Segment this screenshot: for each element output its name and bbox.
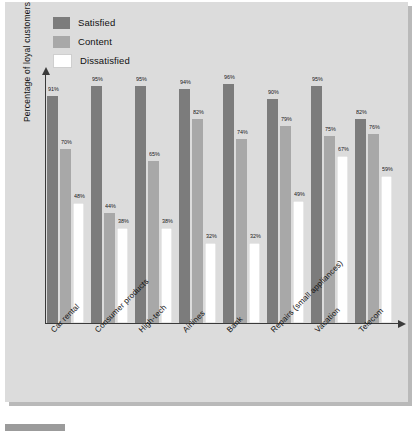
bar-slot: 44% xyxy=(104,74,115,323)
bar-dissatisfied-4[interactable]: 32% xyxy=(249,243,260,323)
bar-value-label: 65% xyxy=(149,151,160,157)
bar-satisfied-1[interactable]: 95% xyxy=(91,86,102,323)
bar-satisfied-3[interactable]: 94% xyxy=(179,89,190,323)
bar-satisfied-4[interactable]: 96% xyxy=(223,84,234,323)
bar-value-label: 70% xyxy=(61,139,72,145)
caption-marker-bar xyxy=(5,424,65,431)
bar-value-label: 44% xyxy=(105,204,116,210)
bar-value-label: 95% xyxy=(92,77,103,83)
bar-content-3[interactable]: 82% xyxy=(192,119,203,323)
bar-value-label: 82% xyxy=(356,109,367,115)
bar-dissatisfied-7[interactable]: 59% xyxy=(381,176,392,323)
bar-value-label: 96% xyxy=(224,74,235,80)
bar-value-label: 49% xyxy=(294,191,305,197)
bar-content-0[interactable]: 70% xyxy=(60,149,71,323)
bar-satisfied-7[interactable]: 82% xyxy=(355,119,366,323)
legend-item: Content xyxy=(53,33,203,50)
bar-value-label: 48% xyxy=(74,194,85,200)
bar-value-label: 79% xyxy=(281,116,292,122)
bar-slot: 79% xyxy=(280,74,291,323)
bar-value-label: 90% xyxy=(268,89,279,95)
bar-slot: 94% xyxy=(179,74,190,323)
bar-slot: 76% xyxy=(368,74,379,323)
legend-label: Content xyxy=(78,36,112,47)
plot-area: 91%70%48%95%44%38%95%65%38%94%82%32%96%7… xyxy=(45,74,400,324)
bar-dissatisfied-6[interactable]: 67% xyxy=(337,156,348,323)
bar-slot: 67% xyxy=(337,74,348,323)
bar-value-label: 67% xyxy=(338,146,349,152)
bar-slot: 65% xyxy=(148,74,159,323)
legend-label: Dissatisfied xyxy=(80,55,130,66)
bar-slot: 75% xyxy=(324,74,335,323)
bar-value-label: 38% xyxy=(162,218,173,224)
bar-slot: 82% xyxy=(355,74,366,323)
bar-content-2[interactable]: 65% xyxy=(148,161,159,323)
bar-value-label: 59% xyxy=(382,166,393,172)
bar-slot: 90% xyxy=(267,74,278,323)
bar-groups: 91%70%48%95%44%38%95%65%38%94%82%32%96%7… xyxy=(47,74,392,323)
bar-slot: 48% xyxy=(73,74,84,323)
bar-slot: 95% xyxy=(91,74,102,323)
bar-slot: 32% xyxy=(205,74,216,323)
y-axis-title: Percentage of loyal customers xyxy=(22,2,32,122)
y-axis-line xyxy=(45,74,46,324)
bar-value-label: 95% xyxy=(312,77,323,83)
bar-value-label: 75% xyxy=(325,126,336,132)
bar-value-label: 38% xyxy=(118,218,129,224)
bar-value-label: 74% xyxy=(237,129,248,135)
figure-container: SatisfiedContentDissatisfied Percentage … xyxy=(0,0,417,433)
bar-group: 91%70%48% xyxy=(47,74,84,323)
bar-group: 94%82%32% xyxy=(179,74,216,323)
legend-swatch-dissatisfied xyxy=(53,54,72,68)
bar-group: 90%79%49% xyxy=(267,74,304,323)
chart-legend: SatisfiedContentDissatisfied xyxy=(53,14,203,71)
bar-slot: 38% xyxy=(161,74,172,323)
bar-value-label: 91% xyxy=(48,87,59,93)
bar-slot: 74% xyxy=(236,74,247,323)
bar-slot: 59% xyxy=(381,74,392,323)
bar-value-label: 32% xyxy=(206,233,217,239)
bar-satisfied-5[interactable]: 90% xyxy=(267,99,278,323)
bar-value-label: 82% xyxy=(193,109,204,115)
bar-slot: 82% xyxy=(192,74,203,323)
bar-slot: 70% xyxy=(60,74,71,323)
bar-content-6[interactable]: 75% xyxy=(324,136,335,323)
legend-swatch-satisfied xyxy=(53,17,70,29)
bar-slot: 96% xyxy=(223,74,234,323)
bar-group: 96%74%32% xyxy=(223,74,260,323)
legend-label: Satisfied xyxy=(78,17,115,28)
bar-group: 82%76%59% xyxy=(355,74,392,323)
bar-content-7[interactable]: 76% xyxy=(368,134,379,323)
bar-dissatisfied-3[interactable]: 32% xyxy=(205,243,216,323)
bar-value-label: 32% xyxy=(250,233,261,239)
chart-plate: SatisfiedContentDissatisfied Percentage … xyxy=(5,2,408,402)
bar-slot: 49% xyxy=(293,74,304,323)
bar-content-4[interactable]: 74% xyxy=(236,139,247,323)
bar-satisfied-0[interactable]: 91% xyxy=(47,96,58,323)
legend-item: Dissatisfied xyxy=(53,52,203,69)
bar-slot: 32% xyxy=(249,74,260,323)
bar-slot: 38% xyxy=(117,74,128,323)
bar-value-label: 95% xyxy=(136,77,147,83)
bar-slot: 91% xyxy=(47,74,58,323)
bar-value-label: 94% xyxy=(180,79,191,85)
bar-value-label: 76% xyxy=(369,124,380,130)
legend-item: Satisfied xyxy=(53,14,203,31)
bar-group: 95%44%38% xyxy=(91,74,128,323)
bar-content-5[interactable]: 79% xyxy=(280,126,291,323)
legend-swatch-content xyxy=(53,36,70,48)
x-axis-category-labels: Car rentalConsumer productsHigh-techAirl… xyxy=(45,326,400,406)
